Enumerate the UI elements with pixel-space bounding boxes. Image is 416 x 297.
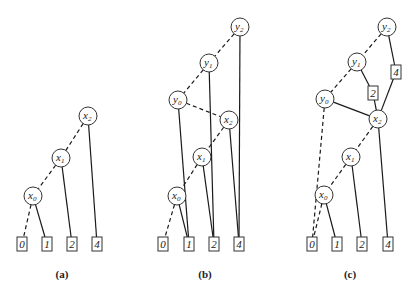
node-x2: x2 xyxy=(79,107,97,125)
leaf-2: 2 xyxy=(368,86,378,100)
node-y1: y1 xyxy=(348,53,366,71)
leaf-label: 4 xyxy=(236,238,242,250)
leaf-label: 1 xyxy=(44,238,50,250)
node-y2: y2 xyxy=(378,18,396,36)
panel-c: y2y1y0x2x1x0420124(c) xyxy=(307,18,401,281)
edge-y2-L4-solid xyxy=(239,36,240,237)
node-x2: x2 xyxy=(369,110,387,128)
edge-x0-L0-dashed xyxy=(165,205,174,237)
edge-y1-y0-dashed xyxy=(331,69,351,92)
leaf-label: 2 xyxy=(69,238,75,250)
leaf-4: 4 xyxy=(92,237,102,251)
leaf-4: 4 xyxy=(234,237,244,251)
bdd-diagram-figure: x2x1x00124(a) y2y1y0x2x1x00124(b) y2y1y0… xyxy=(0,0,416,297)
node-x0: x0 xyxy=(24,187,42,205)
edge-M4-x2-solid xyxy=(381,79,393,111)
edge-y2-M4-solid xyxy=(389,36,395,65)
node-x1: x1 xyxy=(342,148,360,166)
edge-x2-L4-solid xyxy=(89,125,97,237)
edge-x2-x1-dashed xyxy=(66,124,83,151)
edges xyxy=(24,124,97,237)
edge-y0-x2-dashed xyxy=(186,103,220,116)
leaf-0: 0 xyxy=(17,237,27,251)
edge-y0-L1-solid xyxy=(179,109,189,237)
leaf-label: 0 xyxy=(160,238,166,250)
edge-x1-x0-dashed xyxy=(329,164,346,187)
node-y2: y2 xyxy=(231,18,249,36)
leaf-label: 0 xyxy=(19,238,25,250)
node-x2: x2 xyxy=(220,111,238,129)
panel-a: x2x1x00124(a) xyxy=(17,107,102,281)
leaf-label: 4 xyxy=(94,238,100,250)
panel-caption: (a) xyxy=(56,268,69,281)
leaf-2: 2 xyxy=(67,237,77,251)
node-y1: y1 xyxy=(200,54,218,72)
panel-caption: (b) xyxy=(198,268,212,281)
leaf-1: 1 xyxy=(332,237,342,251)
edge-x0-L0-dashed xyxy=(24,205,31,237)
node-y0: y0 xyxy=(316,90,334,108)
node-x0: x0 xyxy=(168,187,186,205)
edge-x1-L2-solid xyxy=(352,166,361,237)
leaf-label: 1 xyxy=(186,238,192,250)
node-y0: y0 xyxy=(169,91,187,109)
leaf-label: 2 xyxy=(211,238,217,250)
edge-y1-y0-dashed xyxy=(184,70,203,93)
leaf-2: 2 xyxy=(357,237,367,251)
leaf-2: 2 xyxy=(209,237,219,251)
edge-y2-y1-dashed xyxy=(363,34,381,55)
leaf-label: 2 xyxy=(359,238,365,250)
edge-x2-x1-dashed xyxy=(356,126,373,149)
edge-y2-y1-dashed xyxy=(215,34,234,56)
leaf-4: 4 xyxy=(383,237,393,251)
edge-x0-L1-solid xyxy=(36,205,45,237)
leaf-1: 1 xyxy=(184,237,194,251)
leaf-label: 2 xyxy=(370,87,376,99)
edge-M2-x2-solid xyxy=(374,100,376,110)
edge-y0-x2-solid xyxy=(333,102,369,116)
node-x0: x0 xyxy=(315,186,333,204)
panel-b: y2y1y0x2x1x00124(b) xyxy=(158,18,249,281)
edge-x1-x0-dashed xyxy=(38,165,55,189)
edge-x1-L2-solid xyxy=(62,167,71,237)
leaf-label: 1 xyxy=(334,238,340,250)
node-x1: x1 xyxy=(193,148,211,166)
leaf-label: 0 xyxy=(309,238,315,250)
edge-x2-x1-dashed xyxy=(207,127,223,149)
leaf-label: 4 xyxy=(385,238,391,250)
edge-x0-L1-solid xyxy=(326,204,335,237)
node-x1: x1 xyxy=(52,149,70,167)
leaf-4: 4 xyxy=(391,65,401,79)
panel-caption: (c) xyxy=(344,268,357,281)
leaf-label: 4 xyxy=(393,66,399,78)
leaf-0: 0 xyxy=(307,237,317,251)
edge-x2-L4-solid xyxy=(379,128,388,237)
edge-x2-L4-solid xyxy=(230,129,239,237)
leaf-0: 0 xyxy=(158,237,168,251)
edge-y1-M2-solid xyxy=(361,70,369,86)
leaf-1: 1 xyxy=(42,237,52,251)
